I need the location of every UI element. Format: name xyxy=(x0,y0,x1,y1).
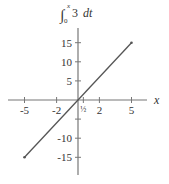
endpoint-marker xyxy=(130,41,133,44)
integral-lower-limit: 0 xyxy=(64,17,68,25)
x-axis-label: x xyxy=(153,93,160,107)
differential: dt xyxy=(83,6,93,20)
chart-title: ∫ x 0 3 dt xyxy=(59,2,93,25)
integrand: 3 xyxy=(72,6,78,20)
y-tick-label: 15 xyxy=(61,37,73,49)
endpoint-marker xyxy=(23,156,26,159)
x-tick-label: 5 xyxy=(129,104,135,116)
x-tick-label: ½ xyxy=(80,105,86,114)
x-tick-label: -5 xyxy=(20,104,30,116)
integral-line-chart: ∫ x 0 3 dt -5-2½25 -15-1051015 x xyxy=(0,0,169,184)
integral-upper-limit: x xyxy=(66,2,71,10)
y-tick-label: -15 xyxy=(57,151,72,163)
y-tick-label: -10 xyxy=(57,132,72,144)
y-tick-label: 10 xyxy=(61,56,73,68)
x-tick-label: 2 xyxy=(97,104,103,116)
y-tick-label: 5 xyxy=(67,75,73,87)
x-tick-label: -2 xyxy=(52,104,61,116)
